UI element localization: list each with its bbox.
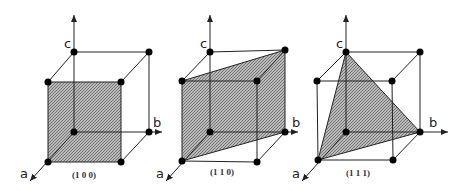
a-label: a <box>156 166 164 181</box>
plane-100-shading <box>48 82 121 162</box>
b-label: b <box>429 115 437 130</box>
c-label: c <box>200 36 207 51</box>
cube-110: c b a (1 1 0) <box>156 15 300 181</box>
a-label: a <box>292 166 300 181</box>
cube-111: c b a (1 1 1) <box>292 15 448 181</box>
c-label: c <box>336 36 343 51</box>
cube-100: c b a (1 0 0) <box>20 15 162 181</box>
b-label: b <box>292 115 300 130</box>
plane-label: (1 1 0) <box>210 167 234 177</box>
b-label: b <box>153 115 161 130</box>
diagram-canvas: c b a (1 0 0) c b a (1 1 0) <box>0 0 469 191</box>
plane-label: (1 1 1) <box>346 168 370 178</box>
miller-planes-diagram: c b a (1 0 0) c b a (1 1 0) <box>0 0 469 191</box>
a-label: a <box>20 166 28 181</box>
plane-label: (1 0 0) <box>72 170 96 180</box>
c-label: c <box>64 36 71 51</box>
